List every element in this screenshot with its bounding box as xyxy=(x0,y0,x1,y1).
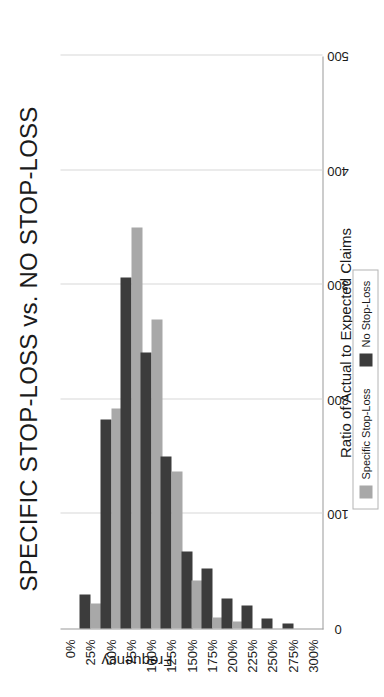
bar xyxy=(120,277,131,628)
bar xyxy=(261,618,272,628)
category-tick-label: 300% xyxy=(305,639,320,691)
category-tick-label: 0% xyxy=(62,639,77,691)
bar xyxy=(282,623,293,628)
category-tick-label: 100% xyxy=(143,639,158,691)
legend-item[interactable]: Specific Stop-Loss xyxy=(359,388,372,498)
legend-item[interactable]: No Stop-Loss xyxy=(359,280,372,366)
bar-group xyxy=(60,56,80,628)
bar-group xyxy=(303,56,323,628)
category-tick-label: 225% xyxy=(244,639,259,691)
bar xyxy=(181,551,192,628)
chart-title: SPECIFIC STOP-LOSS vs. NO STOP-LOSS xyxy=(14,0,42,697)
category-tick-label: 200% xyxy=(224,639,239,691)
chart-figure: SPECIFIC STOP-LOSS vs. NO STOP-LOSS Freq… xyxy=(0,0,384,697)
category-tick-label: 25% xyxy=(82,639,97,691)
light-gray-swatch-icon xyxy=(359,485,372,498)
category-tick-label: 175% xyxy=(204,639,219,691)
category-tick-label: 150% xyxy=(184,639,199,691)
bar-group xyxy=(100,56,120,628)
bar-group xyxy=(283,56,303,628)
bar-group xyxy=(202,56,222,628)
category-tick-label: 125% xyxy=(163,639,178,691)
legend-label: No Stop-Loss xyxy=(359,280,371,347)
bar-group xyxy=(141,56,161,628)
bar-group xyxy=(262,56,282,628)
bar-group xyxy=(80,56,100,628)
bar-group xyxy=(242,56,262,628)
plot-area xyxy=(60,56,323,629)
legend-label: Specific Stop-Loss xyxy=(359,388,371,479)
category-tick-label: 50% xyxy=(103,639,118,691)
category-tick-label: 275% xyxy=(285,639,300,691)
bar xyxy=(160,456,171,628)
bar xyxy=(221,598,232,628)
bar-group xyxy=(222,56,242,628)
category-tick-label: 250% xyxy=(264,639,279,691)
bar-group xyxy=(161,56,181,628)
gridline xyxy=(60,54,322,55)
bar xyxy=(79,594,90,628)
category-tick-label: 75% xyxy=(123,639,138,691)
bar xyxy=(140,352,151,628)
bar xyxy=(201,568,212,628)
bar-group xyxy=(181,56,201,628)
chart-legend: Specific Stop-LossNo Stop-Loss xyxy=(352,269,378,509)
x-axis-title: Ratio of Actual to Expected Claims xyxy=(336,56,353,629)
dark-gray-swatch-icon xyxy=(359,353,372,366)
bar xyxy=(241,605,252,628)
bar xyxy=(100,419,111,628)
bar-group xyxy=(121,56,141,628)
